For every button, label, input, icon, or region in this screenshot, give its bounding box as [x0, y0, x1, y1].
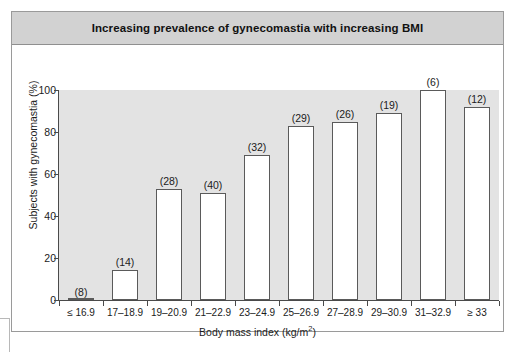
chart-title-banner: Increasing prevalence of gynecomastia wi…	[12, 12, 503, 45]
bar-group[interactable]: (32)	[235, 90, 279, 300]
bar-group[interactable]: (28)	[147, 90, 191, 300]
x-axis-title: Body mass index (kg/m2)	[12, 324, 503, 338]
x-axis-tick-label: 19–20.9	[147, 307, 191, 318]
x-axis-tick-label: 25–26.9	[279, 307, 323, 318]
bar-value-label: (26)	[323, 108, 367, 120]
bar[interactable]	[68, 298, 94, 300]
figure-frame: Increasing prevalence of gynecomastia wi…	[11, 11, 504, 332]
bar-value-label: (8)	[59, 286, 103, 298]
bar-value-label: (32)	[235, 141, 279, 153]
bar-group[interactable]: (19)	[367, 90, 411, 300]
bar-group[interactable]: (14)	[103, 90, 147, 300]
bar-value-label: (29)	[279, 112, 323, 124]
bar-series: (8)(14)(28)(40)(32)(29)(26)(19)(6)(12)	[59, 90, 499, 300]
x-axis-tick-label: 21–22.9	[191, 307, 235, 318]
x-axis-tick-mark	[59, 301, 60, 306]
bar-value-label: (19)	[367, 99, 411, 111]
chart-plot-region: Subjects with gynecomastia (%) 020406080…	[12, 45, 503, 332]
bar[interactable]	[376, 113, 402, 300]
x-axis-tick-label: ≤ 16.9	[59, 307, 103, 318]
x-axis-tick-label: 27–28.9	[323, 307, 367, 318]
bar-value-label: (40)	[191, 179, 235, 191]
chart-title: Increasing prevalence of gynecomastia wi…	[92, 22, 424, 34]
x-axis-tick-label: ≥ 33	[455, 307, 499, 318]
x-axis-tick-mark	[323, 301, 324, 306]
x-axis-tick-labels: ≤ 16.917–18.919–20.921–22.923–24.925–26.…	[59, 307, 499, 323]
x-axis-tick-mark	[235, 301, 236, 306]
bar-group[interactable]: (8)	[59, 90, 103, 300]
x-axis-tick-label: 17–18.9	[103, 307, 147, 318]
x-axis-tick-mark	[499, 301, 500, 306]
x-axis-tick-mark	[367, 301, 368, 306]
bar[interactable]	[464, 107, 490, 300]
bar[interactable]	[156, 189, 182, 300]
x-axis-tick-mark	[147, 301, 148, 306]
bar[interactable]	[244, 155, 270, 300]
x-axis-tick-label: 29–30.9	[367, 307, 411, 318]
bar-group[interactable]: (40)	[191, 90, 235, 300]
bar-value-label: (14)	[103, 256, 147, 268]
bar[interactable]	[332, 122, 358, 301]
x-axis-tick-mark	[279, 301, 280, 306]
bar-group[interactable]: (6)	[411, 90, 455, 300]
x-axis-tick-mark	[103, 301, 104, 306]
bar-value-label: (28)	[147, 175, 191, 187]
x-axis-tick-mark	[191, 301, 192, 306]
bar-value-label: (12)	[455, 93, 499, 105]
bar[interactable]	[288, 126, 314, 300]
x-axis-tick-label: 31–32.9	[411, 307, 455, 318]
bar[interactable]	[420, 90, 446, 300]
x-axis-tick-mark	[411, 301, 412, 306]
y-axis-tick-labels: 020406080100	[26, 45, 56, 332]
bar-value-label: (6)	[411, 76, 455, 88]
bar[interactable]	[112, 270, 138, 300]
x-axis-tick-label: 23–24.9	[235, 307, 279, 318]
scan-edge-artifact	[0, 318, 10, 352]
bar[interactable]	[200, 193, 226, 300]
bar-group[interactable]: (26)	[323, 90, 367, 300]
x-axis-tick-mark	[455, 301, 456, 306]
bar-group[interactable]: (12)	[455, 90, 499, 300]
bar-group[interactable]: (29)	[279, 90, 323, 300]
